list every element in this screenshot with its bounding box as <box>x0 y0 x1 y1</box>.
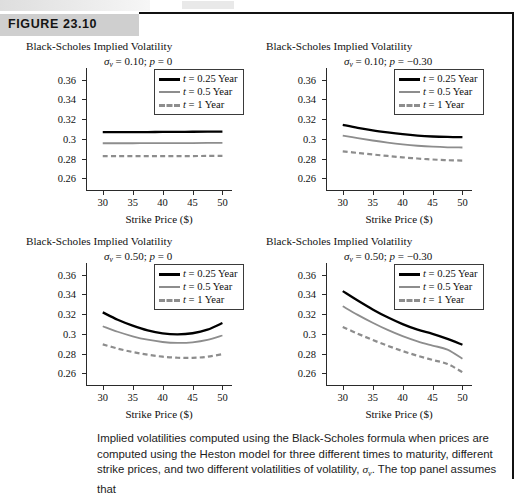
scan-artifact-top-left <box>0 0 150 11</box>
legend-item: t = 1 Year <box>159 293 238 306</box>
legend-item: t = 0.5 Year <box>399 280 478 293</box>
series-line <box>343 151 463 160</box>
legend-item: t = 1 Year <box>399 98 478 111</box>
figure-label: FIGURE 23.10 <box>8 17 97 31</box>
legend-label: t = 0.25 Year <box>183 73 238 84</box>
x-axis-title: Strike Price ($) <box>125 213 192 225</box>
y-tick-label: 0.34 <box>58 94 76 105</box>
legend-swatch-icon <box>159 295 180 305</box>
legend-label: t = 1 Year <box>183 99 224 110</box>
y-tick-label: 0.34 <box>298 289 316 300</box>
y-tick-label: 0.3 <box>303 133 316 144</box>
x-tick <box>373 385 374 390</box>
x-axis-line <box>326 190 472 191</box>
x-tick-label: 30 <box>338 197 349 208</box>
x-tick-label: 50 <box>217 197 228 208</box>
x-tick <box>433 190 434 195</box>
x-tick-label: 40 <box>157 197 168 208</box>
legend-item: t = 1 Year <box>159 98 238 111</box>
x-tick-label: 50 <box>217 392 228 403</box>
series-line <box>343 125 463 137</box>
x-tick <box>133 385 134 390</box>
legend-label: t = 1 Year <box>183 294 224 305</box>
legend-swatch-icon <box>399 282 420 292</box>
legend-item: t = 0.5 Year <box>159 280 238 293</box>
panel-subtitle: σv = 0.50; p = −0.30 <box>344 250 432 264</box>
y-tick-label: 0.36 <box>298 269 316 280</box>
x-tick <box>222 385 223 390</box>
figure-panels: Black-Scholes Implied Volatilityσv = 0.1… <box>0 40 514 430</box>
legend-label: t = 0.5 Year <box>423 86 472 97</box>
legend-swatch-icon <box>159 74 180 84</box>
x-tick-label: 35 <box>367 197 378 208</box>
chart-legend: t = 0.25 Yeart = 0.5 Yeart = 1 Year <box>394 69 484 115</box>
x-tick <box>462 190 463 195</box>
y-tick-label: 0.32 <box>298 114 316 125</box>
x-axis-title: Strike Price ($) <box>365 213 432 225</box>
x-tick-label: 35 <box>127 197 138 208</box>
y-tick-label: 0.28 <box>58 153 76 164</box>
x-tick <box>133 190 134 195</box>
series-line <box>343 306 463 358</box>
x-tick <box>103 385 104 390</box>
y-tick-label: 0.26 <box>58 368 76 379</box>
figure-caption: Implied volatilities computed using the … <box>97 431 505 497</box>
panel-subtitle: σv = 0.10; p = −0.30 <box>344 55 432 69</box>
legend-swatch-icon <box>399 87 420 97</box>
legend-item: t = 0.5 Year <box>399 85 478 98</box>
series-line <box>103 132 223 133</box>
y-tick-label: 0.32 <box>58 114 76 125</box>
x-axis-line <box>86 385 232 386</box>
x-tick <box>403 385 404 390</box>
x-tick <box>163 190 164 195</box>
y-tick-label: 0.26 <box>298 173 316 184</box>
legend-swatch-icon <box>159 100 180 110</box>
legend-swatch-icon <box>399 100 420 110</box>
legend-swatch-icon <box>399 74 420 84</box>
legend-swatch-icon <box>159 269 180 279</box>
legend-item: t = 0.25 Year <box>399 267 478 280</box>
page-rule-top <box>139 12 514 14</box>
legend-swatch-icon <box>159 87 180 97</box>
x-tick <box>343 190 344 195</box>
legend-label: t = 0.5 Year <box>183 281 232 292</box>
legend-item: t = 0.25 Year <box>159 267 238 280</box>
y-tick-label: 0.26 <box>298 368 316 379</box>
chart-legend: t = 0.25 Yeart = 0.5 Yeart = 1 Year <box>154 264 244 310</box>
x-axis-line <box>86 190 232 191</box>
panel-title: Black-Scholes Implied Volatility <box>266 40 412 52</box>
x-tick-label: 35 <box>127 392 138 403</box>
series-line <box>103 326 223 343</box>
legend-swatch-icon <box>399 269 420 279</box>
legend-item: t = 0.25 Year <box>159 72 238 85</box>
legend-item: t = 1 Year <box>399 293 478 306</box>
y-tick-label: 0.3 <box>303 328 316 339</box>
series-line <box>343 327 463 372</box>
caption-sigma-symbol: σv <box>362 463 371 475</box>
legend-swatch-icon <box>399 295 420 305</box>
y-tick-label: 0.34 <box>298 94 316 105</box>
chart-panel-top-left: Black-Scholes Implied Volatilityσv = 0.1… <box>18 40 270 235</box>
y-tick-label: 0.3 <box>63 328 76 339</box>
legend-label: t = 0.5 Year <box>423 281 472 292</box>
y-tick-label: 0.36 <box>298 74 316 85</box>
x-tick-label: 45 <box>427 392 438 403</box>
legend-item: t = 0.5 Year <box>159 85 238 98</box>
x-tick <box>403 190 404 195</box>
panel-title: Black-Scholes Implied Volatility <box>26 40 172 52</box>
y-tick-label: 0.28 <box>298 153 316 164</box>
legend-label: t = 0.25 Year <box>423 73 478 84</box>
x-tick-label: 45 <box>187 197 198 208</box>
legend-label: t = 1 Year <box>423 294 464 305</box>
legend-label: t = 0.5 Year <box>183 86 232 97</box>
x-tick <box>163 385 164 390</box>
y-tick-label: 0.36 <box>58 269 76 280</box>
x-tick-label: 50 <box>457 197 468 208</box>
chart-legend: t = 0.25 Yeart = 0.5 Yeart = 1 Year <box>394 264 484 310</box>
y-tick-label: 0.34 <box>58 289 76 300</box>
x-tick <box>193 190 194 195</box>
x-tick-label: 30 <box>98 392 109 403</box>
series-line <box>103 312 223 334</box>
chart-panel-bottom-right: Black-Scholes Implied Volatilityσv = 0.5… <box>258 235 510 430</box>
chart-panel-bottom-left: Black-Scholes Implied Volatilityσv = 0.5… <box>18 235 270 430</box>
